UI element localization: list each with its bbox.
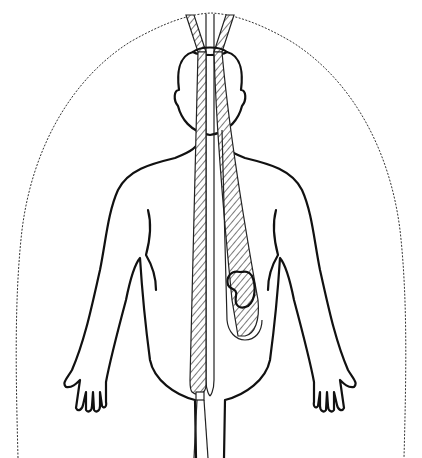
hatched-left-channel xyxy=(190,52,206,394)
channel-exit xyxy=(196,392,204,400)
body-outline xyxy=(64,135,200,458)
diagram-canvas xyxy=(0,0,422,458)
waist-left xyxy=(146,210,156,290)
hatched-channel-top-right xyxy=(214,15,234,52)
waist-right xyxy=(268,210,278,290)
aura-outline xyxy=(16,13,406,458)
central-channel xyxy=(206,52,214,396)
head-outline xyxy=(175,52,246,135)
body-diagram xyxy=(0,0,422,458)
exit-line-right xyxy=(204,400,208,458)
hatched-channel-top-left xyxy=(186,15,206,52)
